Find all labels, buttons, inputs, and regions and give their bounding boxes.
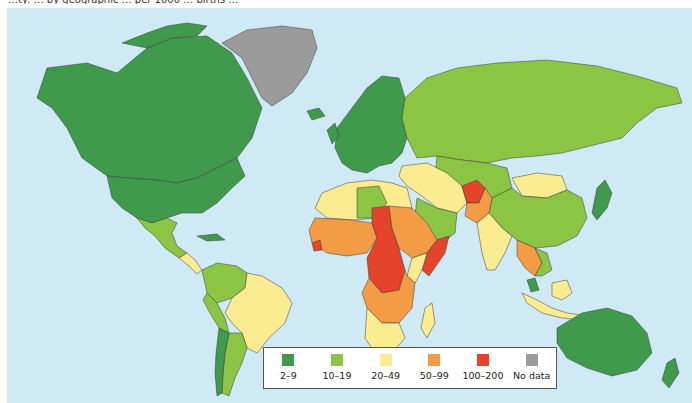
legend-label: 100–200 <box>462 370 503 381</box>
legend-label: 10–19 <box>323 370 352 381</box>
legend-label: No data <box>513 370 550 381</box>
legend-item-10-19: 10–19 <box>314 354 360 381</box>
region-caribbean <box>197 234 225 241</box>
legend-item-2-9: 2–9 <box>265 354 311 381</box>
legend-item-no-data: No data <box>509 354 555 381</box>
region-madagascar <box>421 303 435 338</box>
region-canada <box>37 36 262 183</box>
legend-item-20-49: 20–49 <box>363 354 409 381</box>
region-borneo <box>552 280 572 300</box>
map-caption: …ty: … by geographic … per 1000 … births… <box>8 0 238 4</box>
legend-swatch <box>428 354 440 366</box>
legend-label: 50–99 <box>420 370 449 381</box>
legend-swatch <box>526 354 538 366</box>
region-iceland <box>307 108 325 120</box>
legend-swatch <box>282 354 294 366</box>
map-svg <box>7 8 692 403</box>
legend-swatch <box>477 354 489 366</box>
map-legend: 2–9 10–19 20–49 50–99 100–200 No data <box>263 347 557 389</box>
region-mexico <box>137 218 187 258</box>
legend-label: 20–49 <box>371 370 400 381</box>
region-malaysia <box>527 278 539 292</box>
legend-item-50-99: 50–99 <box>411 354 457 381</box>
legend-label: 2–9 <box>280 370 297 381</box>
legend-swatch <box>331 354 343 366</box>
region-russia <box>402 60 682 163</box>
world-map <box>7 8 692 403</box>
region-central-america <box>179 253 202 274</box>
region-new-zealand <box>662 358 679 388</box>
legend-swatch <box>380 354 392 366</box>
legend-item-100-200: 100–200 <box>460 354 506 381</box>
region-japan <box>592 180 612 220</box>
region-europe <box>335 76 407 173</box>
